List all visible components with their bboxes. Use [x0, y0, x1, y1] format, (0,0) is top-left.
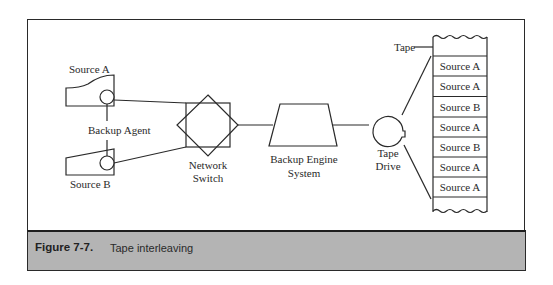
tape-wavy-bottom — [433, 210, 487, 213]
backup-agent-label: Backup Agent — [88, 124, 151, 136]
tape-drive-label-2: Drive — [375, 160, 400, 172]
source-b-agent-icon — [100, 156, 114, 170]
tape-block: Source A — [440, 121, 481, 133]
backup-engine-label-2: System — [288, 167, 321, 179]
source-a-label: Source A — [69, 63, 110, 75]
figure-number: Figure 7-7. — [35, 241, 93, 253]
tape-label: Tape — [394, 41, 415, 53]
tape-wavy-top — [433, 36, 487, 39]
source-a-agent-icon — [100, 90, 114, 104]
figure-title: Tape interleaving — [110, 242, 193, 254]
network-switch-label-1: Network — [189, 159, 228, 171]
caption-bar — [27, 230, 526, 271]
tape-block: Source A — [440, 181, 481, 193]
tape-drive-label-1: Tape — [377, 147, 398, 159]
tape-block: Source B — [440, 141, 481, 153]
tape-block: Source B — [440, 101, 481, 113]
source-b-label: Source B — [70, 178, 111, 190]
tape-drive-icon — [373, 117, 405, 147]
backup-engine-icon — [269, 104, 337, 146]
network-switch-label-2: Switch — [193, 172, 224, 184]
backup-engine-label-1: Backup Engine — [270, 153, 338, 165]
tape-block: Source A — [440, 60, 481, 72]
tape-block: Source A — [440, 80, 481, 92]
tape-block: Source A — [440, 161, 481, 173]
